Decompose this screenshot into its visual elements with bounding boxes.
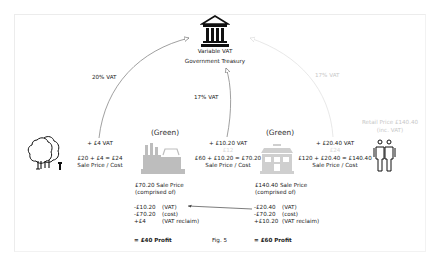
manufacturer-line-cost: -£70.20(cost) — [134, 211, 178, 218]
retailer-sale-title: £140.40 Sale Price — [255, 182, 307, 189]
manufacturer-profit: = £40 Profit — [134, 237, 172, 244]
retailer-calc: £120 + £20.40 = £140.40 — [293, 155, 377, 162]
figure-caption: Fig. 5 — [212, 237, 227, 244]
flow-label-retailer: 17% VAT — [315, 72, 340, 79]
treasury-label-1: Variable VAT — [180, 48, 250, 55]
shop-icon — [260, 144, 294, 174]
retailer-heading: (Green) — [255, 128, 305, 137]
retailer-calc-label: Sale Price / Cost — [293, 162, 377, 169]
retailer-line-reclaim: +£10.20(VAT reclaim) — [254, 218, 319, 225]
retailer-vat-note: £24 — [305, 147, 365, 154]
retailer-line-cost: -£70.20(cost) — [254, 211, 298, 218]
manufacturer-heading: (Green) — [140, 128, 190, 137]
manufacturer-vat-note: £12 — [198, 147, 258, 154]
manufacturer-calc: £60 + £10.20 = £70.20 — [188, 155, 268, 162]
manufacturer-sale-title: £70.20 Sale Price — [135, 182, 184, 189]
arrow-retailer-to-treasury — [250, 38, 333, 137]
arrow-manufacturer-to-treasury — [226, 68, 231, 137]
arrow-grower-to-treasury — [99, 38, 189, 138]
retailer-vat-added: + £20.40 VAT — [305, 140, 365, 147]
government-building-icon — [200, 14, 230, 48]
grower-calc-label: Sale Price / Cost — [70, 162, 130, 169]
factory-icon — [141, 141, 185, 177]
arrow-vat-reclaim — [188, 206, 252, 209]
treasury-label-2: Government Treasury — [170, 58, 260, 65]
manufacturer-line-vat: -£10.20(VAT) — [134, 204, 177, 211]
retailer-line-vat: -£20.40(VAT) — [254, 204, 297, 211]
people-icon — [373, 139, 397, 173]
flow-label-manufacturer: 17% VAT — [194, 94, 219, 101]
manufacturer-line-reclaim: +£4(VAT reclaim) — [134, 218, 199, 225]
retailer-profit: = £60 Profit — [254, 237, 292, 244]
manufacturer-vat-added: + £10.20 VAT — [198, 140, 258, 147]
trees-icon — [27, 134, 67, 174]
retail-price-line-1: Retail Price £140.40 — [350, 119, 430, 126]
manufacturer-calc-label: Sale Price / Cost — [188, 162, 268, 169]
manufacturer-sale-sub: (comprised of) — [135, 189, 176, 196]
grower-calc: £20 + £4 = £24 — [70, 155, 130, 162]
grower-vat-added: + £4 VAT — [75, 140, 125, 147]
retail-price-line-2: (inc. VAT) — [350, 127, 430, 134]
retailer-sale-sub: (comprised of) — [255, 189, 296, 196]
flow-label-grower: 20% VAT — [92, 74, 117, 81]
